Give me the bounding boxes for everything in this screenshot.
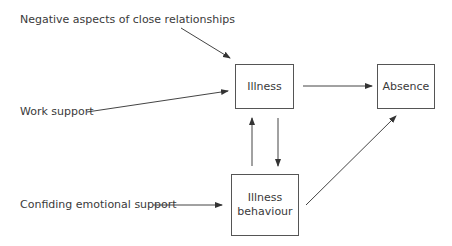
node-illness-behaviour: Illness behaviour	[231, 174, 299, 236]
input-confiding-label: Confiding emotional support	[20, 198, 177, 211]
node-illness: Illness	[235, 64, 294, 109]
edge-negative-to-illness	[181, 28, 230, 58]
node-illness-label: Illness	[247, 80, 282, 94]
input-work-label: Work support	[20, 105, 94, 118]
node-absence-label: Absence	[383, 80, 430, 94]
edge-work-to-illness	[87, 91, 228, 112]
node-behaviour-label-line2: behaviour	[237, 205, 292, 219]
edge-behaviour-to-absence	[306, 116, 396, 205]
node-behaviour-label-line1: Illness	[248, 191, 283, 205]
input-negative-label: Negative aspects of close relationships	[20, 13, 235, 26]
node-absence: Absence	[377, 64, 435, 109]
